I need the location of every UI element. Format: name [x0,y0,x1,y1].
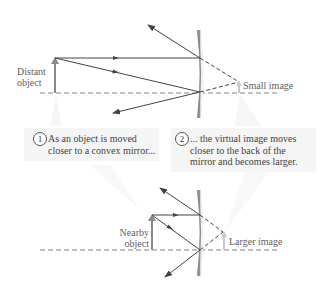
caption-box-2: 2 ... the virtual image moves closer to … [171,128,316,172]
caption-text: As an object is moved closer to a convex… [48,133,155,156]
small-image-label: Small image [243,80,293,91]
label-line: object [115,238,149,249]
label-line: Nearby [115,227,149,238]
step-number-badge: 1 [33,132,47,146]
larger-image-label: Larger image [229,236,282,247]
caption-line: mirror and becomes larger. [190,156,298,168]
nearby-object-label: Nearby object [115,227,149,249]
distant-object-label: Distant object [17,66,46,88]
step-number-badge: 2 [175,132,189,146]
caption-line: As an object is moved [48,133,155,145]
label-line: Distant [17,66,46,77]
caption-line: ... the virtual image moves [190,133,298,145]
caption-box-1: 1 As an object is moved closer to a conv… [24,128,159,161]
caption-text: ... the virtual image moves closer to th… [190,133,298,168]
caption-line: closer to a convex mirror... [48,145,155,157]
label-line: object [17,77,46,88]
caption-line: closer to the back of the [190,145,298,157]
